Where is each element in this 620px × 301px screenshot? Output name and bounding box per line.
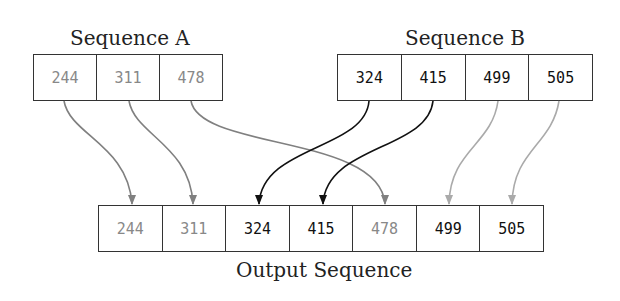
output-array: 244 311 324 415 478 499 505 bbox=[98, 205, 544, 252]
output-cell: 324 bbox=[226, 206, 290, 251]
arrow-a-478 bbox=[191, 101, 385, 204]
output-cell: 311 bbox=[163, 206, 227, 251]
output-cell: 505 bbox=[480, 206, 543, 251]
arrow-b-415 bbox=[323, 101, 433, 204]
arrow-b-324 bbox=[259, 101, 369, 204]
arrow-a-244 bbox=[64, 101, 132, 204]
output-cell: 499 bbox=[417, 206, 481, 251]
arrow-b-499 bbox=[449, 101, 498, 204]
arrow-b-505 bbox=[512, 101, 559, 204]
arrow-a-311 bbox=[129, 101, 193, 204]
output-cell: 244 bbox=[99, 206, 163, 251]
output-cell: 478 bbox=[353, 206, 417, 251]
output-title: Output Sequence bbox=[236, 258, 412, 282]
merge-arrows bbox=[0, 0, 620, 301]
output-cell: 415 bbox=[290, 206, 354, 251]
